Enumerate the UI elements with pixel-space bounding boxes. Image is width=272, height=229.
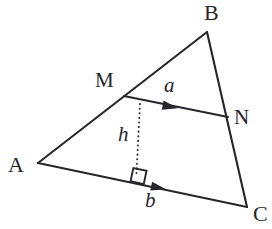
- right-angle-marker: [131, 168, 147, 184]
- measure-label-b: b: [145, 190, 156, 211]
- geometry-figure: A B C M N a h b: [0, 0, 272, 229]
- measure-label-h: h: [118, 124, 129, 145]
- vertex-label-c: C: [253, 203, 268, 225]
- vertex-label-b: B: [204, 2, 219, 24]
- point-label-m: M: [95, 70, 114, 91]
- measure-label-a: a: [164, 75, 175, 96]
- point-label-n: N: [234, 107, 249, 128]
- figure-canvas: [0, 0, 272, 229]
- height-dotted-line: [137, 104, 141, 173]
- vertex-label-a: A: [8, 154, 24, 176]
